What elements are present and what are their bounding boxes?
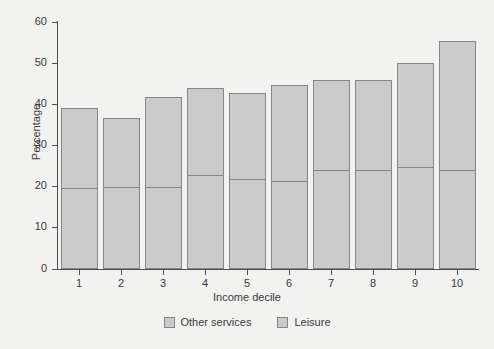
bar-decile-4 [187,88,224,269]
bar-decile-10 [439,41,476,269]
x-tick-label-9: 9 [395,277,435,289]
x-tick-label-3: 3 [143,277,183,289]
y-tick-0 [52,269,57,270]
bar-decile-3 [145,97,182,269]
bar-segment-divider-1 [61,188,98,189]
x-tick-label-4: 4 [185,277,225,289]
y-tick-10 [52,227,57,228]
bar-segment-divider-2 [103,187,140,188]
bar-decile-5 [229,93,266,269]
x-tick-label-8: 8 [353,277,393,289]
y-axis-line [57,21,58,270]
x-tick-label-7: 7 [311,277,351,289]
legend-swatch-leisure [277,317,288,328]
bar-decile-6 [271,85,308,269]
x-tick-9 [415,270,416,275]
y-tick-label-0: 0 [13,263,47,274]
x-tick-1 [79,270,80,275]
bar-segment-divider-8 [355,170,392,171]
x-tick-label-6: 6 [269,277,309,289]
x-tick-4 [205,270,206,275]
x-tick-label-5: 5 [227,277,267,289]
legend-entry-2[interactable]: Leisure [277,316,330,328]
x-tick-8 [373,270,374,275]
bar-segment-divider-5 [229,179,266,180]
bar-segment-divider-10 [439,170,476,171]
y-tick-label-10: 10 [13,221,47,232]
bar-segment-divider-9 [397,167,434,168]
x-tick-2 [121,270,122,275]
x-tick-3 [163,270,164,275]
legend-swatch-other-services [164,317,175,328]
y-tick-label-50: 50 [13,57,47,68]
x-tick-label-2: 2 [101,277,141,289]
y-tick-20 [52,186,57,187]
chart-legend: Other servicesLeisure [0,316,494,328]
y-tick-30 [52,145,57,146]
bar-decile-2 [103,118,140,269]
legend-label-2: Leisure [294,316,330,328]
y-axis-label: Percentage [30,72,42,192]
x-axis-label: Income decile [0,291,494,303]
x-tick-5 [247,270,248,275]
bar-decile-7 [313,80,350,269]
legend-label-1: Other services [181,316,252,328]
legend-entry-1[interactable]: Other services [164,316,252,328]
bar-segment-divider-4 [187,175,224,176]
bar-segment-divider-3 [145,187,182,188]
bar-decile-8 [355,80,392,269]
x-tick-6 [289,270,290,275]
x-tick-10 [457,270,458,275]
bar-segment-divider-7 [313,170,350,171]
bar-segment-divider-6 [271,181,308,182]
bar-decile-9 [397,63,434,269]
x-tick-label-10: 10 [437,277,477,289]
x-tick-label-1: 1 [59,277,99,289]
chart-figure: 0102030405060 12345678910 Percentage Inc… [0,0,494,349]
y-tick-label-60: 60 [13,16,47,27]
y-tick-50 [52,63,57,64]
y-tick-60 [52,22,57,23]
y-tick-40 [52,104,57,105]
x-tick-7 [331,270,332,275]
